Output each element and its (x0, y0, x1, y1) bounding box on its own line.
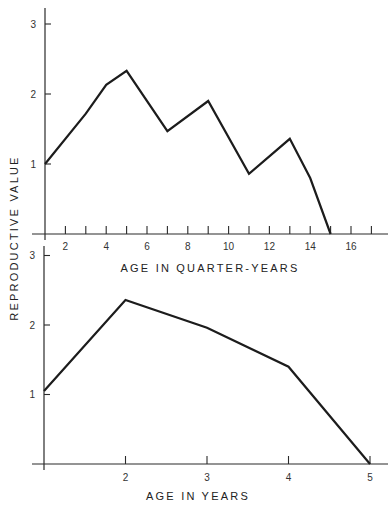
bottom-x-ticks: 2345 (123, 456, 374, 483)
y-tick-label: 2 (29, 320, 35, 331)
x-tick-label: 3 (204, 472, 210, 483)
top-y-ticks: 123 (30, 19, 51, 170)
x-tick-label: 10 (223, 241, 235, 252)
y-tick-label: 1 (30, 159, 36, 170)
bottom-x-axis-label: AGE IN YEARS (146, 490, 250, 502)
y-axis-label: REPRODUCTIVE VALUE (8, 155, 20, 320)
x-tick-label: 4 (103, 241, 109, 252)
x-tick-label: 2 (123, 472, 129, 483)
reproductive-value-figure: REPRODUCTIVE VALUE 123 246810121416 AGE … (0, 0, 389, 506)
x-tick-label: 16 (345, 241, 357, 252)
top-data-line (45, 71, 331, 234)
x-tick-label: 5 (367, 472, 373, 483)
x-tick-label: 4 (286, 472, 292, 483)
y-tick-label: 3 (29, 250, 35, 261)
top-x-axis-label: AGE IN QUARTER-YEARS (121, 262, 300, 274)
x-tick-label: 6 (144, 241, 150, 252)
x-tick-label: 14 (305, 241, 317, 252)
x-tick-label: 8 (185, 241, 191, 252)
top-chart: 123 246810121416 AGE IN QUARTER-YEARS (30, 8, 388, 274)
y-tick-label: 2 (30, 89, 36, 100)
x-tick-label: 12 (264, 241, 276, 252)
y-tick-label: 3 (30, 19, 36, 30)
bottom-y-ticks: 123 (29, 250, 50, 400)
y-tick-label: 1 (29, 389, 35, 400)
x-tick-label: 2 (63, 241, 69, 252)
bottom-chart: 123 2345 AGE IN YEARS (29, 246, 388, 502)
top-x-ticks: 246810121416 (63, 226, 372, 252)
bottom-data-line (44, 300, 370, 464)
